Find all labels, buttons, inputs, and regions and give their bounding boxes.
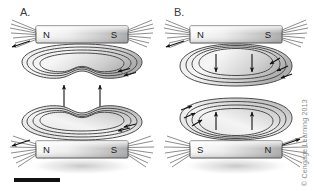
magnet-a-top: N S <box>36 26 128 43</box>
magnet-assembly-b-top: N S <box>164 20 308 86</box>
force-arrows-a <box>64 85 100 112</box>
magnet-b-bottom-pole-left: S <box>197 144 203 155</box>
panel-b: B. <box>164 6 308 175</box>
field-band-b-bottom <box>180 98 292 140</box>
field-arrow-a-bottom-left <box>12 140 30 146</box>
magnet-assembly-b-bottom: S N <box>164 98 308 167</box>
magnet-a-bottom: N S <box>36 141 128 158</box>
magnet-b-top-pole-left: N <box>197 29 204 40</box>
panel-b-shadow <box>180 157 292 175</box>
scale-bar <box>14 178 60 182</box>
magnet-field-figure: A. <box>0 0 315 191</box>
field-whiskers-a-top-right <box>128 20 154 47</box>
magnet-b-bottom: S N <box>190 141 282 158</box>
magnet-b-bottom-pole-right: N <box>265 144 272 155</box>
field-band-b-top <box>180 44 292 86</box>
magnet-assembly-a-bottom: N S <box>10 106 154 167</box>
panel-a-label: A. <box>20 6 30 18</box>
field-arrow-b-bottom-right <box>280 139 300 146</box>
magnet-a-bottom-pole-right: S <box>111 144 117 155</box>
copyright-credit: © Cengage Learning 2013 <box>301 99 309 186</box>
magnet-a-top-pole-right: S <box>111 29 117 40</box>
magnet-b-top-pole-right: S <box>265 29 271 40</box>
panel-a: A. <box>10 6 154 175</box>
panel-b-label: B. <box>174 6 184 18</box>
panel-a-shadow <box>26 157 138 175</box>
magnet-b-top: N S <box>190 26 282 43</box>
magnet-assembly-a-top: N S <box>10 20 154 78</box>
field-whiskers-b-top-right <box>282 20 308 47</box>
magnet-a-bottom-pole-left: N <box>43 144 50 155</box>
magnet-a-top-pole-left: N <box>43 29 50 40</box>
